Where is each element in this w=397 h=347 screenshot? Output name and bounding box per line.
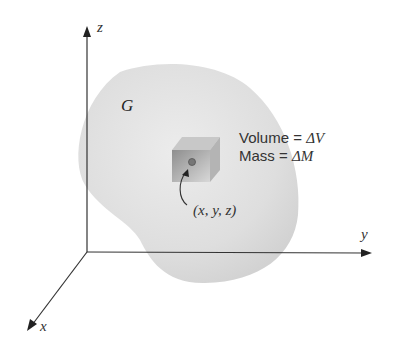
diagram-graphics	[0, 0, 397, 347]
x-axis-label: x	[40, 318, 47, 335]
y-axis-label: y	[361, 226, 368, 243]
point-coordinates-label: (x, y, z)	[193, 202, 236, 219]
region-label: G	[121, 96, 133, 116]
triple-integral-mass-diagram: z y x G Volume = ΔV Mass = ΔM (x, y, z)	[0, 0, 397, 347]
mass-symbol: ΔM	[292, 148, 313, 164]
mass-label: Mass =	[239, 147, 292, 164]
volume-text: Volume = ΔV	[239, 129, 324, 147]
mass-text: Mass = ΔM	[239, 147, 313, 165]
volume-label: Volume =	[239, 129, 306, 146]
volume-symbol: ΔV	[306, 130, 324, 146]
volume-element-cube	[172, 137, 220, 182]
z-axis-label: z	[97, 19, 103, 36]
